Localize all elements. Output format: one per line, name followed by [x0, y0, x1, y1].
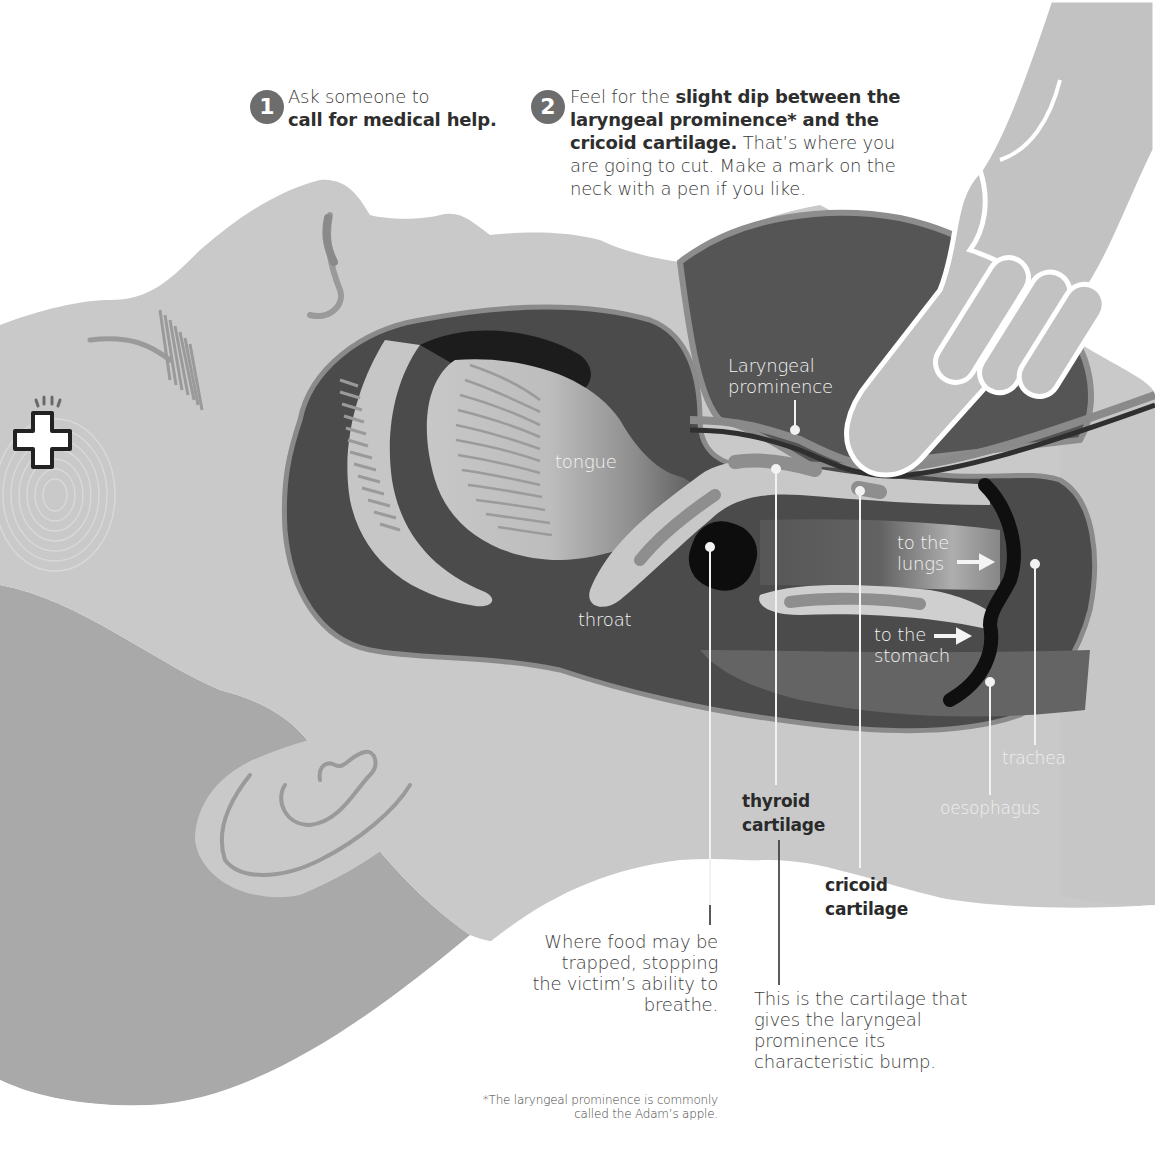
label-laryngeal-prominence: Laryngeal prominence — [728, 355, 848, 397]
footnote: *The laryngeal prominence is commonly ca… — [480, 1093, 718, 1121]
label-to-the-stomach: to the stomach — [874, 624, 936, 666]
note-thyroid-bump: This is the cartilage that gives the lar… — [754, 988, 979, 1072]
step-1-badge: 1 — [250, 90, 284, 124]
label-cricoid-cartilage: cricoid cartilage — [825, 873, 915, 921]
label-oesophagus: oesophagus — [940, 798, 1040, 819]
step-1-bold: call for medical help. — [288, 109, 497, 130]
trachea-tube — [760, 519, 1000, 590]
step-2-badge: 2 — [531, 90, 565, 124]
label-throat: throat — [578, 609, 631, 630]
step-1-plain: Ask someone to — [288, 86, 429, 107]
label-thyroid-cartilage: thyroid cartilage — [742, 789, 832, 837]
step-1-text: Ask someone to call for medical help. — [288, 85, 518, 131]
step-2-plain-1: Feel for the — [570, 86, 675, 107]
vocal-fold-inner — [790, 599, 920, 604]
label-to-the-lungs: to the lungs — [897, 532, 957, 574]
step-2-text: Feel for the slight dip between the lary… — [570, 85, 915, 200]
label-trachea: trachea — [1002, 748, 1066, 769]
label-tongue: tongue — [555, 451, 617, 472]
note-food-trapped: Where food may be trapped, stopping the … — [530, 931, 718, 1015]
